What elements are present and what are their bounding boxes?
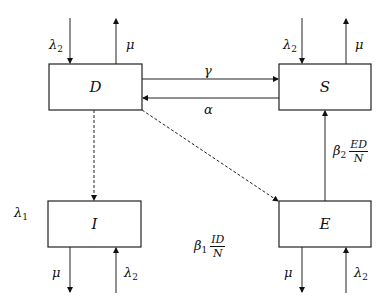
label-lambda2-e: λ2 — [354, 266, 368, 282]
label-mu-s: μ — [355, 38, 363, 51]
label-mu-i: μ — [52, 266, 60, 279]
label-lambda2-s: λ2 — [283, 38, 297, 54]
label-lambda2-i: λ2 — [124, 266, 138, 282]
node-label-s: S — [279, 80, 371, 95]
label-lambda2-d: λ2 — [49, 38, 63, 54]
label-alpha: α — [204, 103, 213, 116]
arrow-d-to-e — [142, 110, 278, 201]
node-label-e: E — [279, 217, 371, 232]
label-beta1-id-n: β1IDN — [194, 234, 225, 259]
label-lambda1: λ1 — [14, 206, 28, 222]
label-gamma: γ — [204, 64, 212, 77]
label-mu-d: μ — [126, 38, 134, 51]
node-label-d: D — [49, 80, 142, 95]
node-label-i: I — [48, 217, 141, 232]
label-mu-e: μ — [284, 266, 292, 279]
label-beta2-ed-n: β2EDN — [333, 139, 368, 164]
